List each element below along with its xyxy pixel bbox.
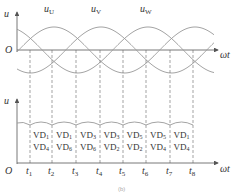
conducting-diode-pair: VD3VD6 [77, 130, 99, 154]
conducting-diode-pair: VD1VD4 [30, 130, 52, 154]
time-tick-label: t5 [119, 166, 125, 179]
conducting-diode-pair: VD1VD4 [171, 130, 193, 154]
top-x-label: ωt [220, 50, 230, 60]
figure-caption: (b) [118, 186, 125, 192]
bottom-x-label: ωt [220, 164, 230, 174]
time-tick-label: t3 [72, 166, 78, 179]
curve-label-u-v: uV [91, 4, 101, 17]
bottom-y-label: u [4, 96, 9, 106]
bottom-origin-label: O [5, 166, 12, 176]
time-tick-label: t8 [189, 166, 195, 179]
conducting-diode-pair: VD1VD6 [53, 130, 75, 154]
curve-label-u-w: uW [140, 4, 152, 17]
time-tick-label: t6 [142, 166, 148, 179]
conducting-diode-pair: VD5VD4 [147, 130, 169, 154]
time-tick-label: t4 [96, 166, 102, 179]
time-tick-label: t2 [48, 166, 54, 179]
top-origin-label: O [5, 45, 12, 55]
rectified-output-ripple [17, 122, 193, 125]
curve-label-u-u: uU [44, 4, 54, 17]
time-tick-label: t7 [166, 166, 172, 179]
top-y-label: u [4, 9, 9, 19]
conducting-diode-pair: VD3VD2 [101, 130, 123, 154]
time-tick-label: t1 [26, 166, 32, 179]
conducting-diode-pair: VD5VD2 [124, 130, 146, 154]
